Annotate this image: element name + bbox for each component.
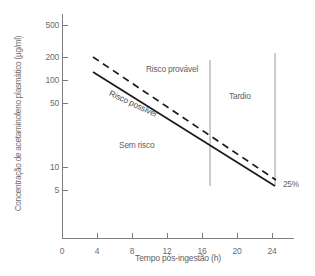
plot-lines [0,0,315,276]
annotation-risco-provavel: Risco provável [146,64,198,74]
acetaminophen-nomogram-chart: 500 200 100 50 10 5 0 4 8 12 16 20 24 Co… [0,0,315,276]
annotation-sem-risco: Sem risco [119,140,154,150]
risco-possivel-solid-line [93,72,275,186]
annotation-percent-25: 25% [283,180,299,189]
annotation-tardio: Tardio [229,91,251,101]
risco-provavel-dashed-line [93,57,276,180]
